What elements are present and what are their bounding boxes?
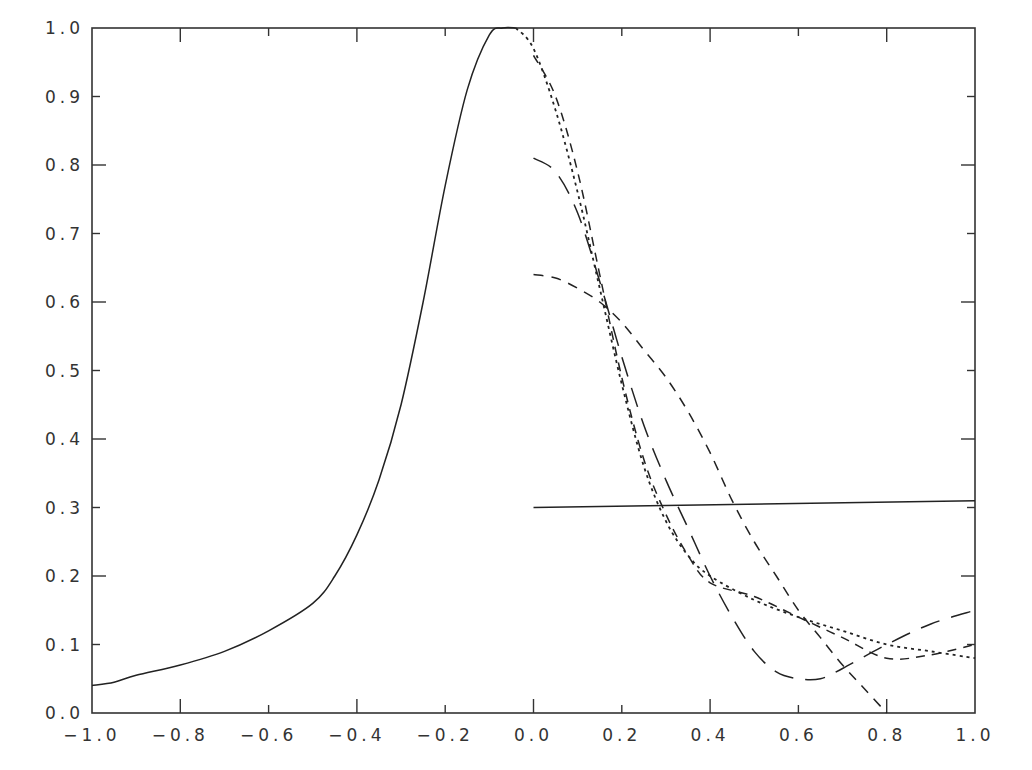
- y-tick-label: 0.9: [45, 87, 84, 107]
- x-tick-label: −0.4: [328, 725, 385, 745]
- x-tick-label: 0.4: [691, 725, 730, 745]
- x-tick-label: 0.2: [602, 725, 641, 745]
- y-tick-label: 0.6: [45, 292, 84, 312]
- x-axis-ticks: −1.0−0.8−0.6−0.4−0.20.00.20.40.60.81.0: [63, 28, 994, 745]
- y-tick-label: 0.8: [45, 155, 84, 175]
- x-tick-label: −0.6: [240, 725, 297, 745]
- y-axis-ticks: 0.00.10.20.30.40.50.60.70.80.91.0: [45, 18, 975, 723]
- series-line-3: [534, 55, 976, 659]
- y-tick-label: 0.2: [45, 566, 84, 586]
- x-tick-label: −0.2: [417, 725, 474, 745]
- y-tick-label: 0.5: [45, 361, 84, 381]
- x-tick-label: 0.8: [867, 725, 906, 745]
- y-tick-label: 0.7: [45, 224, 84, 244]
- series-line-5: [534, 275, 887, 713]
- x-tick-label: −1.0: [63, 725, 120, 745]
- plot-frame: [92, 28, 975, 713]
- x-tick-label: −0.8: [152, 725, 209, 745]
- x-tick-label: 0.6: [779, 725, 818, 745]
- y-tick-label: 0.3: [45, 498, 84, 518]
- x-tick-label: 0.0: [514, 725, 553, 745]
- series-line-4: [534, 158, 976, 680]
- series-line-2: [516, 28, 975, 658]
- y-tick-label: 0.4: [45, 429, 84, 449]
- series-line-1: [534, 501, 976, 508]
- x-tick-label: 1.0: [955, 725, 994, 745]
- data-series: [92, 27, 975, 713]
- y-tick-label: 0.1: [45, 635, 84, 655]
- series-line-0: [92, 27, 516, 685]
- y-tick-label: 1.0: [45, 18, 84, 38]
- line-chart: 0.00.10.20.30.40.50.60.70.80.91.0 −1.0−0…: [0, 0, 1032, 770]
- y-tick-label: 0.0: [45, 703, 84, 723]
